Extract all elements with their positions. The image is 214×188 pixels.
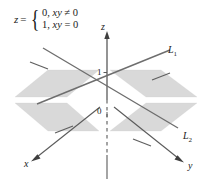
formula-brace: {	[30, 6, 39, 32]
z-axis-arrowhead	[104, 31, 109, 39]
z-axis	[104, 31, 110, 179]
piecewise-formula: z = { 0, xy ≠ 0 1, xy = 0	[14, 6, 78, 32]
line-label-L1: L1	[168, 44, 177, 58]
xy-plane-quadrants	[15, 70, 197, 131]
stub-lower-right	[133, 139, 151, 146]
case-1-condition-val: 0	[73, 19, 78, 30]
line-label-L1-subscript: 1	[174, 50, 178, 58]
plane-quadrant-upper-right	[110, 70, 197, 97]
case-0-condition-op: ≠	[64, 7, 70, 18]
case-0-condition-var: xy	[52, 7, 61, 18]
figure-canvas: z = { 0, xy ≠ 0 1, xy = 0 z x y 1 0 L1 L…	[0, 0, 214, 188]
origin-label-zero: 0	[97, 106, 102, 116]
case-0-condition-val: 0	[73, 7, 78, 18]
plane-quadrant-lower-left	[15, 103, 99, 131]
case-0-value: 0,	[42, 7, 50, 18]
x-axis-label: x	[24, 158, 28, 169]
line-label-L2-subscript: 2	[189, 136, 193, 144]
case-1-condition-op: =	[64, 19, 70, 30]
formula-lhs: z	[14, 13, 18, 25]
z-tick-label-one: 1	[97, 67, 102, 77]
formula-cases: 0, xy ≠ 0 1, xy = 0	[42, 7, 78, 31]
plane-quadrant-lower-right	[110, 103, 197, 131]
stub-upper-left	[30, 62, 48, 69]
case-1-value: 1,	[42, 19, 50, 30]
formula-case-row-0: 0, xy ≠ 0	[42, 7, 78, 19]
case-1-condition-var: xy	[52, 19, 61, 30]
z-axis-label: z	[101, 21, 105, 32]
formula-equals: =	[20, 13, 26, 25]
line-label-L2: L2	[183, 130, 192, 144]
y-axis-label: y	[188, 160, 192, 171]
formula-case-row-1: 1, xy = 0	[42, 19, 78, 31]
